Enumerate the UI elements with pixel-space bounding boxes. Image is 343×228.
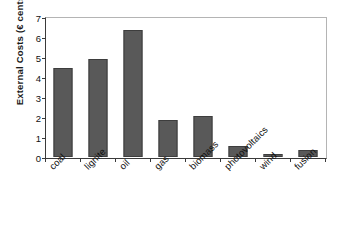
bar-slot-lignite bbox=[80, 17, 115, 157]
y-tick-label-2: 2 bbox=[12, 113, 46, 124]
bar-slot-biomass bbox=[185, 17, 220, 157]
x-tick-mark-2 bbox=[115, 158, 116, 162]
bar-gas[interactable] bbox=[158, 120, 177, 157]
bar-slot-fusion bbox=[290, 17, 325, 157]
y-tick-label-1: 1 bbox=[12, 133, 46, 144]
x-tick-mark-8 bbox=[325, 158, 326, 162]
x-tick-mark-7 bbox=[290, 158, 291, 162]
x-axis-label-oil: oil bbox=[117, 157, 132, 172]
y-tick-label-7: 7 bbox=[12, 13, 46, 24]
bars-layer bbox=[45, 17, 325, 157]
bar-slot-coal bbox=[45, 17, 80, 157]
y-tick-label-3: 3 bbox=[12, 93, 46, 104]
y-tick-label-6: 6 bbox=[12, 33, 46, 44]
bar-coal[interactable] bbox=[53, 68, 72, 157]
x-tick-mark-5 bbox=[220, 158, 221, 162]
y-tick-label-5: 5 bbox=[12, 53, 46, 64]
x-tick-mark-4 bbox=[185, 158, 186, 162]
bar-lignite[interactable] bbox=[88, 59, 107, 157]
y-tick-label-4: 4 bbox=[12, 73, 46, 84]
y-tick-label-0: 0 bbox=[12, 153, 46, 164]
x-tick-mark-3 bbox=[150, 158, 151, 162]
x-tick-mark-0 bbox=[45, 158, 46, 162]
bar-slot-oil bbox=[115, 17, 150, 157]
bar-chart: External Costs (€ cents/kWh) 0 1 2 3 4 5… bbox=[0, 0, 343, 228]
bar-oil[interactable] bbox=[123, 30, 142, 157]
x-tick-mark-1 bbox=[80, 158, 81, 162]
bar-slot-gas bbox=[150, 17, 185, 157]
x-tick-mark-6 bbox=[255, 158, 256, 162]
